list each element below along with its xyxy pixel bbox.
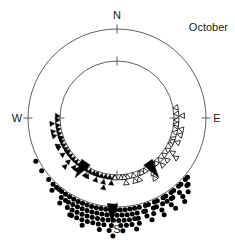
marker-open-triangle: [137, 177, 142, 183]
outer-circle: [28, 29, 206, 207]
marker-filled-circle: [185, 175, 190, 180]
marker-filled-triangle: [103, 174, 108, 179]
marker-filled-circle: [120, 213, 125, 218]
marker-filled-circle: [159, 208, 164, 213]
marker-filled-circle: [163, 194, 168, 199]
marker-filled-circle: [155, 198, 160, 203]
marker-filled-circle: [124, 223, 129, 228]
marker-filled-triangle: [62, 164, 67, 169]
marker-filled-circle: [127, 207, 132, 212]
marker-filled-circle: [80, 206, 85, 211]
marker-filled-circle: [100, 217, 105, 222]
marker-filled-circle: [74, 215, 79, 220]
marker-filled-triangle: [65, 160, 70, 165]
marker-filled-triangle: [101, 185, 106, 190]
marker-open-triangle: [165, 148, 171, 153]
marker-filled-circle: [104, 212, 109, 217]
marker-filled-triangle: [100, 179, 105, 184]
marker-filled-circle: [169, 202, 174, 207]
marker-open-triangle: [170, 151, 176, 156]
marker-filled-circle: [57, 200, 62, 205]
marker-filled-circle: [71, 197, 76, 202]
marker-filled-circle: [186, 189, 191, 194]
marker-filled-circle: [101, 222, 106, 227]
circular-diagram-figure: N E S W October: [0, 0, 235, 240]
marker-filled-circle: [33, 159, 38, 164]
marker-filled-circle: [76, 199, 81, 204]
marker-filled-triangle: [93, 177, 98, 182]
marker-open-triangle: [124, 180, 130, 185]
marker-filled-circle: [122, 218, 127, 223]
marker-filled-circle: [143, 208, 148, 213]
marker-filled-circle: [162, 212, 167, 217]
marker-filled-circle: [151, 211, 156, 216]
marker-open-triangle: [177, 133, 183, 138]
marker-filled-circle: [75, 204, 80, 209]
marker-filled-circle: [135, 211, 140, 216]
reference-circles: [28, 29, 206, 207]
marker-filled-circle: [59, 195, 64, 200]
marker-filled-circle: [106, 218, 111, 223]
marker-filled-circle: [89, 204, 94, 209]
marker-filled-triangle: [60, 153, 65, 158]
marker-filled-circle: [178, 182, 183, 187]
marker-open-triangle: [160, 163, 166, 169]
marker-filled-circle: [150, 217, 155, 222]
marker-filled-circle: [99, 212, 104, 217]
marker-filled-circle: [89, 209, 94, 214]
marker-filled-circle: [120, 228, 125, 233]
axis-label-south: S: [113, 223, 120, 235]
marker-filled-circle: [85, 202, 90, 207]
marker-filled-circle: [67, 212, 72, 217]
marker-filled-circle: [67, 194, 72, 199]
marker-filled-circle: [171, 188, 176, 193]
marker-filled-circle: [146, 202, 151, 207]
marker-filled-circle: [94, 205, 99, 210]
marker-filled-circle: [186, 182, 191, 187]
marker-filled-circle: [90, 215, 95, 220]
marker-open-triangle: [178, 127, 184, 133]
marker-open-triangle: [179, 113, 184, 119]
marker-filled-circle: [80, 201, 85, 206]
marker-filled-circle: [137, 205, 142, 210]
marker-filled-circle: [66, 200, 71, 205]
marker-filled-circle: [85, 219, 90, 224]
marker-filled-circle: [173, 206, 178, 211]
marker-filled-circle: [136, 216, 141, 221]
polar-plot-canvas: N E S W October: [0, 0, 235, 240]
axis-label-west: W: [12, 112, 23, 124]
marker-filled-circle: [107, 228, 112, 233]
marker-filled-triangle: [82, 173, 87, 178]
marker-open-triangle: [175, 141, 181, 146]
marker-filled-circle: [125, 212, 130, 217]
marker-filled-circle: [84, 208, 89, 213]
marker-filled-circle: [160, 201, 165, 206]
marker-filled-circle: [85, 213, 90, 218]
marker-filled-circle: [127, 217, 132, 222]
marker-filled-circle: [103, 207, 108, 212]
marker-open-triangle: [173, 156, 179, 161]
inner-circle: [60, 61, 174, 175]
marker-filled-circle: [130, 212, 135, 217]
marker-filled-circle: [182, 199, 187, 204]
marker-filled-triangle: [107, 174, 112, 179]
marker-filled-circle: [177, 190, 182, 195]
marker-filled-circle: [132, 206, 137, 211]
marker-filled-circle: [165, 199, 170, 204]
axis-label-north: N: [113, 9, 121, 21]
marker-filled-circle: [144, 213, 149, 218]
month-title: October: [189, 21, 228, 33]
marker-filled-circle: [137, 221, 142, 226]
marker-filled-circle: [49, 188, 54, 193]
marker-filled-circle: [95, 216, 100, 221]
marker-filled-circle: [154, 204, 159, 209]
marker-filled-circle: [180, 194, 185, 199]
marker-filled-circle: [170, 195, 175, 200]
marker-filled-triangle: [109, 180, 114, 185]
marker-open-triangle: [162, 153, 168, 158]
marker-filled-triangle: [50, 121, 55, 126]
marker-filled-circle: [39, 168, 44, 173]
marker-filled-circle: [70, 202, 75, 207]
marker-filled-circle: [65, 205, 70, 210]
marker-open-triangle: [165, 158, 171, 163]
